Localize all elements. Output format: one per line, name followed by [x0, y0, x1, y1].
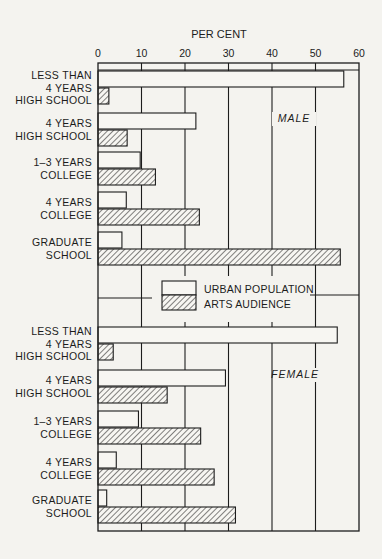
bar-urban-population: [98, 370, 225, 386]
category-label: GRADUATE: [32, 236, 92, 248]
category-label: SCHOOL: [46, 249, 92, 261]
x-tick-label: 30: [223, 47, 235, 59]
category-label: COLLEGE: [40, 169, 92, 181]
category-label: HIGH SCHOOL: [15, 350, 92, 362]
category-label: 4 YEARS: [46, 196, 92, 208]
category-label: HIGH SCHOOL: [15, 387, 92, 399]
panel-label: FEMALE: [271, 368, 319, 380]
category-label: COLLEGE: [40, 428, 92, 440]
x-tick-label: 10: [136, 47, 148, 59]
bar-urban-population: [98, 152, 140, 168]
bar-urban-population: [98, 452, 116, 468]
x-tick-label: 40: [266, 47, 278, 59]
legend-swatch-urban-population: [162, 281, 196, 295]
bar-arts-audience: [98, 344, 113, 360]
bar-arts-audience: [98, 469, 214, 485]
bar-arts-audience: [98, 88, 109, 104]
bar-urban-population: [98, 411, 138, 427]
category-label: 4 YEARS: [46, 374, 92, 386]
category-label: LESS THAN: [31, 69, 92, 81]
bar-arts-audience: [98, 169, 155, 185]
x-tick-label: 50: [310, 47, 322, 59]
category-label: 4 YEARS: [46, 456, 92, 468]
category-label: COLLEGE: [40, 469, 92, 481]
category-label: 4 YEARS: [46, 82, 92, 94]
chart-canvas: PER CENT 0102030405060 LESS THAN4 YEARSH…: [0, 0, 382, 559]
x-tick-label: 0: [95, 47, 101, 59]
bar-arts-audience: [98, 209, 199, 225]
bar-arts-audience: [98, 130, 127, 146]
category-label: HIGH SCHOOL: [15, 94, 92, 106]
bar-arts-audience: [98, 249, 340, 265]
category-label: 1–3 YEARS: [33, 156, 92, 168]
education-bar-chart: PER CENT 0102030405060 LESS THAN4 YEARSH…: [0, 0, 382, 559]
bar-arts-audience: [98, 507, 235, 523]
category-label: SCHOOL: [46, 507, 92, 519]
bar-urban-population: [98, 192, 126, 208]
x-tick-label: 60: [353, 47, 365, 59]
bar-urban-population: [98, 232, 122, 248]
category-label: 1–3 YEARS: [33, 415, 92, 427]
legend-label: ARTS AUDIENCE: [204, 298, 291, 310]
x-axis-tick-labels: 0102030405060: [95, 47, 365, 59]
bar-urban-population: [98, 327, 337, 343]
legend: URBAN POPULATIONARTS AUDIENCE: [152, 276, 314, 322]
category-label: LESS THAN: [31, 325, 92, 337]
bar-urban-population: [98, 490, 107, 506]
bar-urban-population: [98, 71, 344, 87]
x-tick-label: 20: [179, 47, 191, 59]
legend-label: URBAN POPULATION: [204, 283, 314, 295]
legend-swatch-arts-audience: [162, 295, 196, 310]
bar-arts-audience: [98, 387, 167, 403]
category-label: COLLEGE: [40, 209, 92, 221]
panel-label: MALE: [278, 112, 311, 124]
bar-arts-audience: [98, 428, 201, 444]
category-label: HIGH SCHOOL: [15, 130, 92, 142]
category-label: GRADUATE: [32, 494, 92, 506]
category-label: 4 YEARS: [46, 338, 92, 350]
category-label: 4 YEARS: [46, 117, 92, 129]
x-axis-label: PER CENT: [191, 28, 247, 40]
bar-urban-population: [98, 113, 196, 129]
category-labels: LESS THAN4 YEARSHIGH SCHOOL4 YEARSHIGH S…: [15, 69, 92, 519]
